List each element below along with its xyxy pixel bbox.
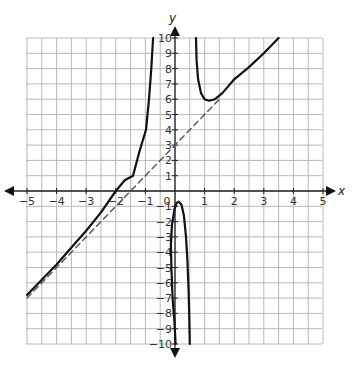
x-tick-label: −5 bbox=[19, 195, 35, 208]
x-axis-right-arrow-icon bbox=[326, 186, 336, 196]
y-tick-label: −2 bbox=[156, 216, 172, 229]
y-tick-label: 3 bbox=[165, 139, 172, 152]
x-tick-label: −3 bbox=[78, 195, 94, 208]
y-tick-label: 1 bbox=[165, 170, 172, 183]
curve-right-branch bbox=[196, 38, 279, 101]
curve-left-branch bbox=[27, 38, 153, 295]
y-tick-label: −6 bbox=[156, 277, 172, 290]
x-tick-label: 5 bbox=[320, 195, 327, 208]
x-tick-label: −4 bbox=[48, 195, 64, 208]
y-tick-label: 9 bbox=[165, 47, 172, 60]
y-axis-label: y bbox=[168, 11, 177, 25]
x-axis-left-arrow-icon bbox=[4, 186, 14, 196]
y-tick-label: −1 bbox=[156, 200, 172, 213]
y-tick-label: 7 bbox=[165, 78, 172, 91]
y-tick-label: −3 bbox=[156, 231, 172, 244]
y-tick-label: 10 bbox=[158, 32, 172, 45]
y-tick-label: −7 bbox=[156, 292, 172, 305]
x-tick-label: 1 bbox=[201, 195, 208, 208]
x-tick-label: 3 bbox=[260, 195, 267, 208]
y-tick-label: 4 bbox=[165, 124, 172, 137]
y-tick-label: −9 bbox=[156, 323, 172, 336]
x-tick-label: 4 bbox=[290, 195, 297, 208]
x-tick-label: −1 bbox=[137, 195, 153, 208]
x-tick-label: 2 bbox=[231, 195, 238, 208]
x-axis-label: x bbox=[337, 184, 346, 198]
y-tick-label: 5 bbox=[165, 109, 172, 122]
y-tick-label: 2 bbox=[165, 154, 172, 167]
y-tick-label: 8 bbox=[165, 63, 172, 76]
y-tick-label: −8 bbox=[156, 307, 172, 320]
curve-middle-branch bbox=[171, 202, 190, 344]
function-graph: −5−4−3−2−1012345−10−9−8−7−6−5−4−3−2−1123… bbox=[0, 0, 359, 371]
y-tick-label: −4 bbox=[156, 246, 172, 259]
y-tick-label: 6 bbox=[165, 93, 172, 106]
x-tick-label: −2 bbox=[108, 195, 124, 208]
y-tick-label: −5 bbox=[156, 262, 172, 275]
y-tick-label: −10 bbox=[149, 338, 172, 351]
